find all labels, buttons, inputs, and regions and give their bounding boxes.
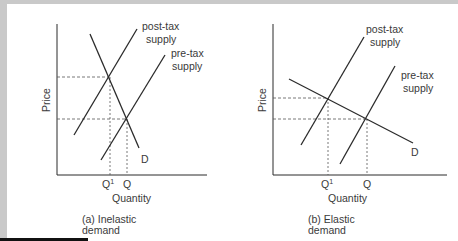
- chart-b-pre-tax-label-line2: supply: [403, 82, 434, 94]
- chart-b-x-axis-label: Quantity: [328, 192, 368, 204]
- chart-a-x-axis-label: Quantity: [112, 192, 152, 204]
- chart-b-post-tax-label-line1: post-tax: [366, 23, 404, 35]
- chart-b-q1-superscript: 1: [329, 178, 333, 185]
- chart-b-q1-tick-label: Q1: [321, 178, 333, 190]
- chart-b-q-tick-label: Q: [363, 178, 371, 190]
- chart-b-elastic: Price post-tax supply pre-tax supply D Q…: [256, 23, 447, 236]
- chart-a-post-tax-supply-curve: [74, 29, 137, 135]
- chart-b-post-tax-supply-curve: [301, 37, 364, 145]
- chart-b-y-axis-label: Price: [256, 88, 268, 112]
- chart-a-pre-tax-label-line2: supply: [172, 60, 203, 72]
- tax-incidence-diagram: Price post-tax supply pre-tax supply D Q…: [0, 0, 458, 241]
- chart-b-caption-line2: demand: [308, 224, 346, 236]
- chart-a-q1-tick-label: Q1: [102, 178, 114, 190]
- chart-b-pre-tax-label-line1: pre-tax: [401, 69, 434, 81]
- chart-a-post-tax-label-line2: supply: [146, 33, 177, 45]
- chart-a-demand-label: D: [141, 153, 149, 165]
- chart-a-post-tax-label-line1: post-tax: [142, 20, 180, 32]
- chart-a-demand-curve: [90, 34, 139, 148]
- chart-b-pre-tax-supply-curve: [340, 66, 395, 164]
- chart-a-pre-tax-supply-curve: [101, 55, 165, 160]
- chart-a-q1-superscript: 1: [110, 178, 114, 185]
- chart-a-pre-tax-label-line1: pre-tax: [171, 47, 204, 59]
- chart-a-caption-line2: demand: [82, 224, 120, 236]
- chart-a-inelastic: Price post-tax supply pre-tax supply D Q…: [40, 20, 207, 236]
- chart-a-y-axis-label: Price: [40, 88, 52, 112]
- chart-b-post-tax-label-line2: supply: [370, 36, 401, 48]
- chart-a-q-tick-label: Q: [123, 178, 131, 190]
- chart-b-demand-label: D: [411, 146, 419, 158]
